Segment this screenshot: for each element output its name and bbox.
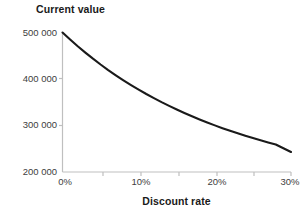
- x-axis-ticks: [103, 172, 291, 176]
- x-axis-title: Discount rate: [62, 195, 291, 207]
- plot-area: [0, 0, 307, 214]
- data-series-line: [63, 33, 292, 153]
- chart-container: Current value 500 000 400 000 300 000 20…: [0, 0, 307, 214]
